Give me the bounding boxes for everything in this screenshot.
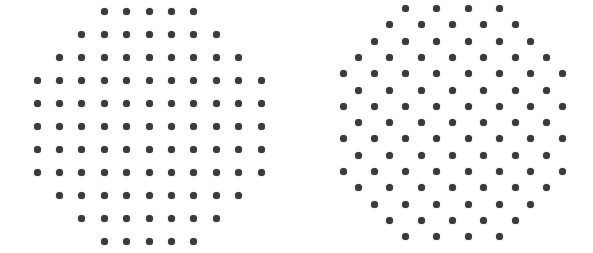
- dot: [418, 152, 425, 159]
- dot: [433, 5, 440, 12]
- dot: [402, 233, 409, 240]
- dot: [355, 152, 362, 159]
- dot: [543, 87, 550, 94]
- dot: [418, 217, 425, 224]
- dot: [433, 38, 440, 45]
- dot: [480, 54, 487, 61]
- dot: [512, 217, 519, 224]
- dot: [402, 135, 409, 142]
- dot: [465, 233, 472, 240]
- dot: [543, 119, 550, 126]
- dot: [496, 70, 503, 77]
- dot: [449, 152, 456, 159]
- dot: [433, 135, 440, 142]
- dot: [402, 38, 409, 45]
- dot: [465, 70, 472, 77]
- dot: [496, 5, 503, 12]
- dot: [465, 38, 472, 45]
- dot: [449, 54, 456, 61]
- dot: [340, 135, 347, 142]
- dot: [496, 103, 503, 110]
- dot: [355, 119, 362, 126]
- dot: [449, 184, 456, 191]
- dot: [386, 54, 393, 61]
- dot: [527, 201, 534, 208]
- dot: [433, 201, 440, 208]
- dot: [386, 184, 393, 191]
- dot: [527, 168, 534, 175]
- dot: [559, 135, 566, 142]
- dot: [559, 70, 566, 77]
- dot: [559, 103, 566, 110]
- dot: [543, 152, 550, 159]
- dot: [512, 21, 519, 28]
- dot: [449, 217, 456, 224]
- dot: [402, 70, 409, 77]
- dot: [543, 184, 550, 191]
- dot: [496, 233, 503, 240]
- dot: [386, 152, 393, 159]
- dot: [371, 38, 378, 45]
- dot: [465, 168, 472, 175]
- dot: [386, 87, 393, 94]
- dot: [371, 70, 378, 77]
- dot: [371, 103, 378, 110]
- dot: [465, 135, 472, 142]
- dot: [371, 135, 378, 142]
- dot: [386, 21, 393, 28]
- dot: [496, 135, 503, 142]
- dot: [371, 168, 378, 175]
- dot: [433, 168, 440, 175]
- dot: [418, 87, 425, 94]
- dot: [371, 201, 378, 208]
- dot: [480, 21, 487, 28]
- dot: [418, 184, 425, 191]
- dot: [355, 54, 362, 61]
- dot: [433, 70, 440, 77]
- dot: [402, 103, 409, 110]
- dot: [402, 201, 409, 208]
- dot: [480, 119, 487, 126]
- dot: [418, 119, 425, 126]
- dot: [559, 168, 566, 175]
- dot: [340, 168, 347, 175]
- dot: [386, 217, 393, 224]
- dot: [512, 54, 519, 61]
- dot: [496, 38, 503, 45]
- dot: [527, 135, 534, 142]
- dot: [418, 21, 425, 28]
- dot: [355, 87, 362, 94]
- dot: [496, 201, 503, 208]
- dot: [386, 119, 393, 126]
- dot: [527, 103, 534, 110]
- dot: [402, 168, 409, 175]
- dot: [480, 217, 487, 224]
- dot: [496, 168, 503, 175]
- dot: [512, 87, 519, 94]
- dot: [527, 38, 534, 45]
- dot: [512, 184, 519, 191]
- dot: [480, 184, 487, 191]
- dot: [465, 5, 472, 12]
- dot: [449, 87, 456, 94]
- dot: [480, 87, 487, 94]
- dot: [340, 70, 347, 77]
- dot: [355, 184, 362, 191]
- dot: [418, 54, 425, 61]
- dot: [465, 103, 472, 110]
- dot: [340, 103, 347, 110]
- dot: [527, 70, 534, 77]
- dot: [449, 119, 456, 126]
- dot: [543, 54, 550, 61]
- dot: [433, 103, 440, 110]
- hexagonal-lattice-pattern: [0, 0, 593, 253]
- dot: [433, 233, 440, 240]
- dot: [402, 5, 409, 12]
- dot: [480, 152, 487, 159]
- dot: [512, 119, 519, 126]
- dot: [449, 21, 456, 28]
- dot: [465, 201, 472, 208]
- dot: [512, 152, 519, 159]
